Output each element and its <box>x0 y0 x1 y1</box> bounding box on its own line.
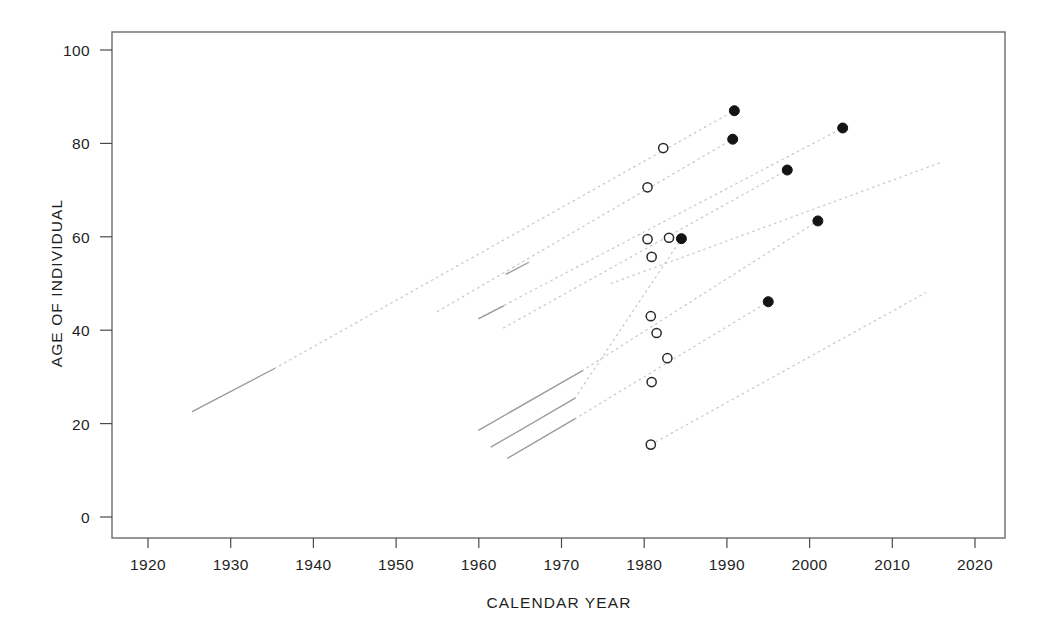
x-tick-label: 1940 <box>295 556 331 573</box>
cohort-1-solid <box>193 368 275 411</box>
x-tick-1980: 1980 <box>626 538 662 573</box>
x-tick-label: 1990 <box>709 556 745 573</box>
data-point-open <box>646 312 655 321</box>
data-point-open <box>647 377 656 386</box>
y-axis-title: AGE OF INDIVIDUAL <box>48 199 65 368</box>
x-tick-2010: 2010 <box>874 538 910 573</box>
x-tick-1960: 1960 <box>461 538 497 573</box>
data-point-open <box>664 233 673 242</box>
x-tick-1950: 1950 <box>378 538 414 573</box>
cohort-7-solid <box>508 419 575 458</box>
cohort-4-dotted <box>504 170 788 328</box>
y-tick-label: 60 <box>72 229 90 246</box>
cohort-6-solid <box>491 398 575 447</box>
x-tick-1920: 1920 <box>130 538 166 573</box>
x-tick-label: 2010 <box>874 556 910 573</box>
data-point-filled <box>676 234 686 244</box>
cohort-8-dotted <box>651 293 926 445</box>
data-point-open <box>647 252 656 261</box>
plot-frame <box>112 32 1005 538</box>
y-tick-label: 0 <box>81 509 90 526</box>
data-point-filled <box>813 216 823 226</box>
scatter-plot: 1920193019401950196019701980199020002010… <box>0 0 1043 638</box>
axis-ticks: 1920193019401950196019701980199020002010… <box>63 42 993 573</box>
data-point-filled <box>763 297 773 307</box>
cohort-2-dotted <box>437 139 732 311</box>
data-point-open <box>652 328 661 337</box>
y-tick-0: 0 <box>81 509 112 526</box>
y-tick-80: 80 <box>72 135 112 152</box>
x-tick-label: 1960 <box>461 556 497 573</box>
data-point-filled <box>838 123 848 133</box>
x-axis-title: CALENDAR YEAR <box>487 594 632 611</box>
y-tick-label: 100 <box>63 42 90 59</box>
x-tick-label: 1980 <box>626 556 662 573</box>
data-points <box>643 106 848 450</box>
x-tick-label: 2000 <box>792 556 828 573</box>
x-tick-1990: 1990 <box>709 538 745 573</box>
y-tick-100: 100 <box>63 42 112 59</box>
y-tick-20: 20 <box>72 416 112 433</box>
cohort-trend-lines <box>193 111 942 458</box>
x-tick-label: 1950 <box>378 556 414 573</box>
data-point-filled <box>729 106 739 116</box>
y-tick-40: 40 <box>72 322 112 339</box>
data-point-open <box>646 440 655 449</box>
data-point-open <box>643 235 652 244</box>
chart-container: 1920193019401950196019701980199020002010… <box>0 0 1043 638</box>
x-tick-2000: 2000 <box>792 538 828 573</box>
data-point-open <box>659 143 668 152</box>
data-point-open <box>643 183 652 192</box>
data-point-filled <box>728 134 738 144</box>
y-tick-label: 80 <box>72 135 90 152</box>
x-tick-label: 1930 <box>213 556 249 573</box>
cohort-5-dotted <box>582 221 818 371</box>
data-point-open <box>663 354 672 363</box>
x-tick-1940: 1940 <box>295 538 331 573</box>
x-tick-2020: 2020 <box>957 538 993 573</box>
y-tick-60: 60 <box>72 229 112 246</box>
y-tick-label: 40 <box>72 322 90 339</box>
x-tick-label: 1970 <box>543 556 579 573</box>
x-tick-label: 2020 <box>957 556 993 573</box>
x-tick-1930: 1930 <box>213 538 249 573</box>
data-point-filled <box>782 165 792 175</box>
cohort-3-solid <box>479 306 504 319</box>
cohort-5-solid <box>479 371 582 430</box>
x-tick-1970: 1970 <box>543 538 579 573</box>
cohort-9-dotted <box>611 162 942 283</box>
x-tick-label: 1920 <box>130 556 166 573</box>
y-tick-label: 20 <box>72 416 90 433</box>
